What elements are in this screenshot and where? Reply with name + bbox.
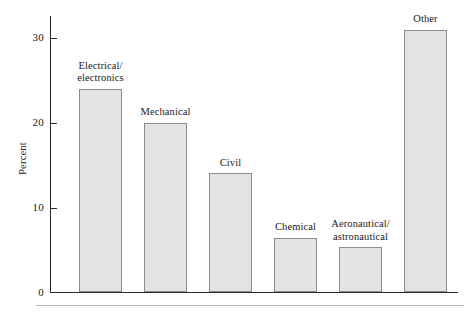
y-tick-label-20-group: 20 xyxy=(0,117,44,128)
bar-chart-figure: Percent 30 20 10 0 Electrical/ electroni… xyxy=(0,0,471,312)
x-axis-line xyxy=(50,292,458,293)
bar-label-other: Other xyxy=(377,13,471,26)
bar-label-electrical-electronics: Electrical/ electronics xyxy=(52,60,149,85)
y-tick-label-0: 0 xyxy=(0,287,44,298)
y-tick-label-20: 20 xyxy=(0,117,44,128)
y-tick-label-30: 30 xyxy=(0,32,44,43)
page-bottom-rule xyxy=(36,305,464,306)
bar-aeronautical-astronautical xyxy=(339,247,382,292)
y-tick-label-10-group: 10 xyxy=(0,202,44,213)
y-tick-label-0-group: 0 xyxy=(0,287,44,298)
y-tick-label-30-group: 30 xyxy=(0,32,44,43)
bar-label-mechanical: Mechanical xyxy=(117,106,214,119)
y-tick-label-10: 10 xyxy=(0,202,44,213)
bar-label-civil: Civil xyxy=(182,157,279,170)
y-axis-line xyxy=(50,16,51,293)
y-tick-mark-10 xyxy=(50,208,57,209)
bar-civil xyxy=(209,173,252,292)
bar-chemical xyxy=(274,238,317,292)
bar-label-aeronautical-astronautical: Aeronautical/ astronautical xyxy=(312,218,409,243)
bar-electrical-electronics xyxy=(79,89,122,292)
y-axis-title: Percent xyxy=(17,129,28,189)
bar-other xyxy=(404,30,447,292)
y-tick-mark-20 xyxy=(50,123,57,124)
bar-mechanical xyxy=(144,123,187,292)
y-tick-mark-30 xyxy=(50,38,57,39)
